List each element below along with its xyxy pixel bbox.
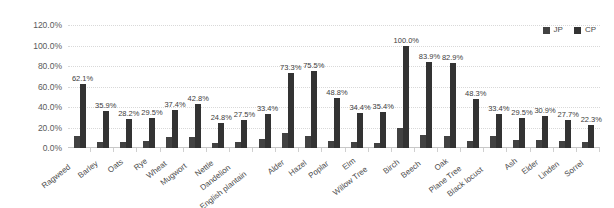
bar-value-label: 62.1% [72,75,93,83]
bar-group: 62.1% [68,25,91,148]
x-axis-tick-label: Oak [444,147,461,163]
bar-value-label: 28.2% [118,110,139,118]
bar-value-label: 83.9% [419,53,440,61]
bar-group: 33.4% [253,25,276,148]
bar-cp[interactable]: 34.4% [357,113,363,148]
y-axis-tick-label: 0.0% [43,144,62,153]
bar-value-label: 35.4% [373,103,394,111]
plot-area: 62.1%35.9%28.2%29.5%37.4%42.8%24.8%27.5%… [68,25,600,148]
bar-group: 48.3% [461,25,484,148]
y-axis-tick-label: 100.0% [33,41,62,50]
bar-group: 35.9% [91,25,114,148]
bar-cp[interactable]: 33.4% [496,114,502,148]
bar-value-label: 22.3% [581,116,602,124]
bar-cp[interactable]: 35.4% [380,112,386,148]
x-label-slot: Poplar [322,150,345,208]
y-axis-tick-label: 80.0% [38,62,62,71]
bar-value-label: 30.9% [534,107,555,115]
bar-cp[interactable]: 75.5% [311,71,317,148]
x-label-slot: Black locust [484,150,507,208]
bar-group: 37.4% [161,25,184,148]
y-axis-tick-label: 20.0% [38,123,62,132]
bar-cp[interactable]: 83.9% [426,62,432,148]
x-label-slot: English plantain [253,150,276,208]
bar-cp[interactable]: 48.3% [473,99,479,149]
x-axis-tick-label: Rye [143,148,160,164]
bar-group: 29.5% [137,25,160,148]
bar-group: 73.3% [276,25,299,148]
legend-label-jp: JP [554,26,563,34]
legend-entry-jp[interactable]: JP [543,26,563,34]
bar-group: 27.7% [554,25,577,148]
bar-value-label: 33.4% [257,105,278,113]
x-label-slot: Oats [114,150,137,208]
x-label-slot: Willow Tree [369,150,392,208]
bar-cp[interactable]: 62.1% [80,84,86,148]
y-axis-tick-label: 120.0% [33,21,62,30]
bar-group: 27.5% [230,25,253,148]
bar-value-label: 75.5% [303,62,324,70]
bar-group: 34.4% [346,25,369,148]
bar-cp[interactable]: 37.4% [172,110,178,148]
x-axis-tick-label: Elm [352,148,368,164]
x-label-slot: Ash [507,150,530,208]
bar-value-label: 37.4% [164,101,185,109]
bar-groups: 62.1%35.9%28.2%29.5%37.4%42.8%24.8%27.5%… [68,25,600,148]
bar-group: 35.4% [369,25,392,148]
bar-value-label: 24.8% [211,114,232,122]
bar-value-label: 34.4% [349,104,370,112]
bar-value-label: 42.8% [188,95,209,103]
bar-group: 100.0% [392,25,415,148]
bar-group: 83.9% [415,25,438,148]
bar-group: 30.9% [531,25,554,148]
y-axis-tick-label: 40.0% [38,103,62,112]
bar-group: 82.9% [438,25,461,148]
bar-value-label: 27.7% [558,111,579,119]
square-marker-icon [543,27,550,34]
x-label-slot: Sorrel [577,150,600,208]
bar-value-label: 29.5% [141,109,162,117]
bar-group: 28.2% [114,25,137,148]
bar-value-label: 35.9% [95,102,116,110]
chart-legend: JP CP [543,26,596,34]
y-axis-tick-label: 60.0% [38,82,62,91]
x-axis-tick-label: Ash [514,148,530,164]
bar-value-label: 48.3% [465,90,486,98]
y-axis-tick-labels: 120.0%100.0%80.0%60.0%40.0%20.0%0.0% [0,25,62,148]
bar-cp[interactable]: 27.5% [241,120,247,148]
x-axis-tick-label: Sorrel [580,145,602,165]
bar-value-label: 27.5% [234,111,255,119]
bar-cp[interactable]: 30.9% [542,116,548,148]
bar-cp[interactable]: 42.8% [195,104,201,148]
bar-cp[interactable]: 27.7% [565,120,571,148]
bar-cp[interactable]: 29.5% [519,118,525,148]
x-label-slot: Alder [276,150,299,208]
bar-group: 29.5% [507,25,530,148]
bar-cp[interactable]: 82.9% [450,63,456,148]
bar-cp[interactable]: 24.8% [218,123,224,148]
bar-cp[interactable]: 22.3% [588,125,594,148]
bar-cp[interactable]: 29.5% [149,118,155,148]
bar-chart: JP CP 120.0%100.0%80.0%60.0%40.0%20.0%0.… [0,0,614,208]
bar-cp[interactable]: 33.4% [265,114,271,148]
legend-entry-cp[interactable]: CP [574,26,596,34]
square-marker-icon [574,27,581,34]
bar-group: 22.3% [577,25,600,148]
bar-group: 42.8% [184,25,207,148]
bar-cp[interactable]: 28.2% [126,119,132,148]
x-label-slot: Ragweed [68,150,91,208]
bar-cp[interactable]: 48.8% [334,98,340,148]
x-label-slot: Barley [91,150,114,208]
bar-value-label: 73.3% [280,64,301,72]
x-axis-tick-labels: RagweedBarleyOatsRyeWheatMugwortNettleDa… [68,150,600,208]
bar-cp[interactable]: 35.9% [103,111,109,148]
x-label-slot: Beech [415,150,438,208]
bar-group: 24.8% [207,25,230,148]
bar-value-label: 33.4% [488,105,509,113]
bar-group: 33.4% [484,25,507,148]
bar-cp[interactable]: 100.0% [403,46,409,149]
bar-group: 48.8% [322,25,345,148]
bar-group: 75.5% [299,25,322,148]
bar-value-label: 82.9% [442,54,463,62]
legend-label-cp: CP [585,26,596,34]
